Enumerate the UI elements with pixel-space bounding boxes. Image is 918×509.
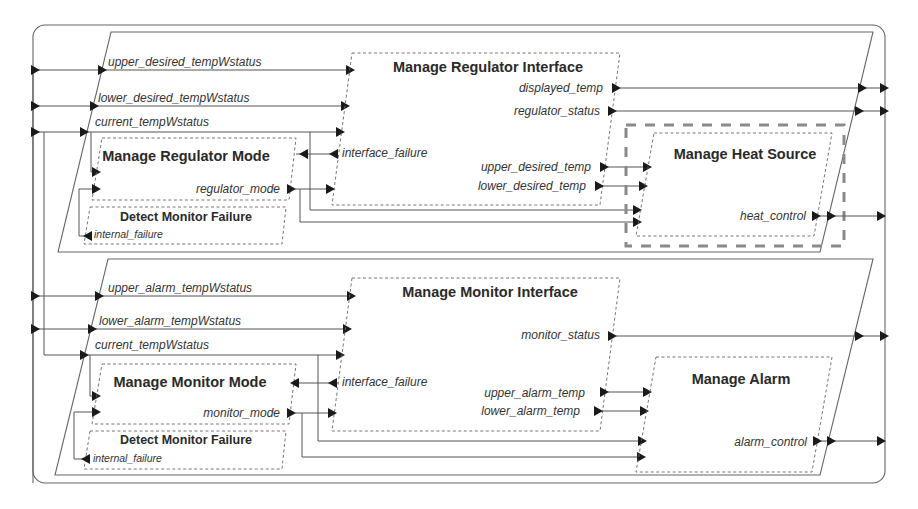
thermostat-architecture-diagram: upper_desired_tempWstatus lower_desired_… (0, 0, 918, 509)
port-heat-control: heat_control (740, 209, 806, 223)
block-manage-monitor-interface: Manage Monitor Interface monitor_status … (332, 278, 620, 431)
label-lower-desired-tempWstatus: lower_desired_tempWstatus (98, 91, 249, 105)
port-upper-alarm-temp: upper_alarm_temp (484, 386, 585, 400)
label-current-tempWstatus-monitor: current_tempWstatus (95, 338, 209, 352)
flow-upper-alarm-tempWstatus: upper_alarm_tempWstatus (31, 281, 356, 301)
title-detect-monitor-failure-monitor: Detect Monitor Failure (120, 433, 252, 447)
title-manage-regulator-interface: Manage Regulator Interface (393, 59, 583, 75)
flow-lower-alarm-tempWstatus: lower_alarm_tempWstatus (31, 314, 352, 334)
port-regulator-status: regulator_status (514, 104, 600, 118)
port-alarm-control: alarm_control (734, 435, 807, 449)
port-lower-desired-temp: lower_desired_temp (478, 179, 586, 193)
port-monitor-status: monitor_status (521, 328, 600, 342)
flow-regulator-mode (287, 184, 642, 227)
port-displayed-temp: displayed_temp (519, 81, 603, 95)
flow-interface-failure (296, 149, 338, 159)
port-lower-alarm-temp: lower_alarm_temp (481, 404, 580, 418)
label-current-tempWstatus: current_tempWstatus (95, 115, 209, 129)
flow-monitor-status (608, 331, 889, 341)
block-manage-regulator-interface: Manage Regulator Interface displayed_tem… (332, 53, 620, 205)
flow-upper-desired-tempWstatus: upper_desired_tempWstatus (31, 55, 355, 75)
port-regulator-mode: regulator_mode (196, 182, 280, 196)
block-detect-monitor-failure-regulator: Detect Monitor Failure internal_failure (84, 207, 286, 244)
block-manage-heat-source: Manage Heat Source heat_control (636, 133, 832, 236)
highlight-heat-source (626, 125, 844, 246)
title-manage-alarm: Manage Alarm (692, 371, 791, 387)
flow-interface-failure-monitor (290, 378, 338, 388)
block-manage-regulator-mode: Manage Regulator Mode regulator_mode (92, 138, 296, 200)
flow-displayed-temp (612, 83, 889, 93)
title-manage-monitor-mode: Manage Monitor Mode (113, 374, 266, 390)
flow-alarm-control (813, 436, 886, 446)
monitor-subsystem: upper_alarm_tempWstatus lower_alarm_temp… (31, 259, 889, 475)
title-manage-monitor-interface: Manage Monitor Interface (402, 284, 578, 300)
port-internal-failure-monitor: internal_failure (93, 452, 162, 464)
label-lower-alarm-tempWstatus: lower_alarm_tempWstatus (99, 314, 241, 328)
flow-lower-desired-tempWstatus: lower_desired_tempWstatus (31, 91, 350, 111)
flow-regulator-status (608, 106, 889, 116)
port-interface-failure-monitor: interface_failure (342, 375, 428, 389)
block-manage-monitor-mode: Manage Monitor Mode monitor_mode (92, 364, 296, 424)
flow-upper-alarm-temp (600, 387, 652, 397)
title-manage-regulator-mode: Manage Regulator Mode (102, 148, 270, 164)
regulator-subsystem: upper_desired_tempWstatus lower_desired_… (31, 32, 889, 483)
block-manage-alarm: Manage Alarm alarm_control (636, 357, 832, 472)
title-detect-monitor-failure: Detect Monitor Failure (120, 210, 252, 224)
flow-lower-alarm-temp (594, 406, 649, 416)
block-detect-monitor-failure-monitor: Detect Monitor Failure internal_failure (84, 431, 286, 469)
title-manage-heat-source: Manage Heat Source (674, 146, 817, 162)
port-monitor-mode: monitor_mode (203, 406, 280, 420)
flow-heat-control (812, 211, 886, 221)
label-upper-alarm-tempWstatus: upper_alarm_tempWstatus (108, 281, 252, 295)
port-upper-desired-temp: upper_desired_temp (481, 160, 591, 174)
port-internal-failure: internal_failure (94, 228, 163, 240)
port-interface-failure: interface_failure (342, 146, 428, 160)
label-upper-desired-tempWstatus: upper_desired_tempWstatus (108, 55, 261, 69)
flow-monitor-mode (287, 408, 646, 462)
